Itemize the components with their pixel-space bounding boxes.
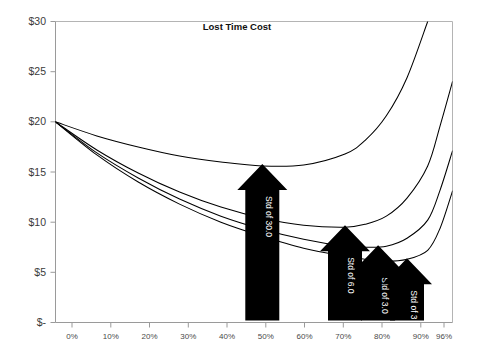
x-tick-label-5: 50%: [258, 332, 274, 341]
x-tick-label-6: 60%: [296, 332, 312, 341]
x-tick-label-2: 20%: [141, 332, 157, 341]
y-tick-label-2: $10: [28, 216, 46, 228]
annotation-arrow-0: Std of 30.0: [237, 164, 287, 321]
lost-time-cost-chart: $- $5 $10 $15 $20 $25 $30 0% 10% 20% 30%: [0, 0, 479, 354]
y-tick-label-3: $15: [28, 166, 46, 178]
x-tick-label-10: 96%: [436, 332, 452, 341]
x-tick-label-8: 80%: [374, 332, 390, 341]
x-axis-ticks: 0% 10% 20% 30% 40% 50% 60% 70% 80% 90% 9…: [66, 323, 452, 342]
x-tick-label-1: 10%: [103, 332, 119, 341]
y-tick-label-4: $20: [28, 115, 46, 127]
annotation-label-1: Std of 6.0: [346, 257, 356, 294]
chart-title: Lost Time Cost: [203, 21, 272, 32]
arrow-glyph-icon: [237, 164, 287, 321]
chart-canvas: $- $5 $10 $15 $20 $25 $30 0% 10% 20% 30%: [0, 0, 479, 354]
x-tick-label-0: 0%: [66, 332, 78, 341]
series-line-0: [56, 22, 428, 167]
x-tick-label-4: 40%: [219, 332, 235, 341]
annotation-label-3: Std of 3: [409, 290, 419, 320]
annotation-layer: Std of 30.0Std of 6.0Std of 3.0Std of 3: [237, 164, 432, 321]
x-tick-label-7: 70%: [335, 332, 351, 341]
y-tick-label-0: $-: [37, 316, 47, 328]
y-tick-label-6: $30: [28, 15, 46, 27]
y-tick-label-1: $5: [34, 266, 46, 278]
x-tick-label-9: 90%: [413, 332, 429, 341]
y-axis-ticks: $- $5 $10 $15 $20 $25 $30: [28, 15, 55, 328]
y-tick-label-5: $25: [28, 65, 46, 77]
annotation-label-0: Std of 30.0: [264, 196, 274, 237]
x-tick-label-3: 30%: [180, 332, 196, 341]
